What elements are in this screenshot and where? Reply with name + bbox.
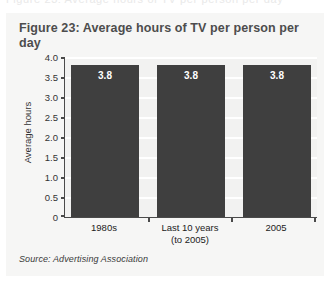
x-label-line: 2005 xyxy=(242,222,310,234)
page-remnant-text: Figure 23: Average hours of TV per perso… xyxy=(6,0,332,5)
x-label-line: Last 10 years xyxy=(156,222,224,234)
x-label-line: 1980s xyxy=(70,222,138,234)
bar-last-10-years[interactable]: 3.8 xyxy=(157,65,225,217)
bar-value-label: 3.8 xyxy=(270,70,284,217)
x-label-2005: 2005 xyxy=(242,222,310,246)
bar-chart: Average hours 0 0.5 1.0 1.5 2.0 2.5 3.0 … xyxy=(6,57,324,242)
y-axis-tick-labels: 0 0.5 1.0 1.5 2.0 2.5 3.0 3.5 4.0 xyxy=(30,57,62,217)
figure-title: Figure 23: Average hours of TV per perso… xyxy=(19,21,309,51)
source-note: Source: Advertising Association xyxy=(19,254,148,264)
x-label-1980s: 1980s xyxy=(70,222,138,246)
y-tick-label: 2.0 xyxy=(45,132,58,143)
plot-area: 3.8 3.8 3.8 xyxy=(64,57,317,218)
bar-2005[interactable]: 3.8 xyxy=(243,65,311,217)
y-tick-label: 3.5 xyxy=(45,72,58,83)
bar-value-label: 3.8 xyxy=(184,70,198,217)
y-tick-label: 0 xyxy=(53,212,58,223)
bar-series: 3.8 3.8 3.8 xyxy=(65,57,317,217)
y-tick-label: 1.5 xyxy=(45,152,58,163)
bar-value-label: 3.8 xyxy=(98,70,112,217)
bar-1980s[interactable]: 3.8 xyxy=(71,65,139,217)
y-tick-label: 2.5 xyxy=(45,112,58,123)
x-label-line: (to 2005) xyxy=(156,234,224,246)
page-text-remnant: Figure 23: Average hours of TV per perso… xyxy=(0,0,332,12)
x-label-last-10-years: Last 10 years (to 2005) xyxy=(156,222,224,246)
x-axis-labels: 1980s Last 10 years (to 2005) 2005 xyxy=(64,222,316,246)
y-tick-label: 4.0 xyxy=(45,52,58,63)
y-tick-label: 0.5 xyxy=(45,192,58,203)
y-tick-label: 1.0 xyxy=(45,172,58,183)
figure-panel: Figure 23: Average hours of TV per perso… xyxy=(6,13,324,276)
y-tick-label: 3.0 xyxy=(45,92,58,103)
